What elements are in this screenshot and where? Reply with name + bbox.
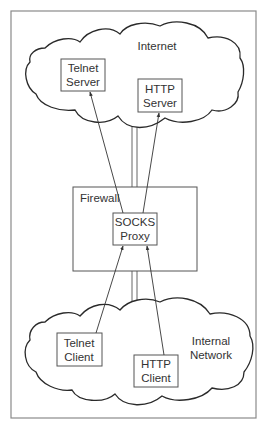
http-client-label-line1: HTTP [141,358,171,370]
telnet-server-node: Telnet Server [61,59,105,91]
socks-proxy-label-line1: SOCKS [115,216,156,228]
internet-cloud [26,22,244,128]
http-client-label-line2: Client [141,372,171,384]
internal-network-label-line1: Internal [192,335,230,347]
network-pipe-top [132,124,137,187]
socks-proxy-diagram: Firewall Internet Internal Network Telne… [0,0,268,425]
http-client-node: HTTP Client [134,355,178,387]
internal-network-label-line2: Network [190,349,232,361]
http-server-label-line1: HTTP [145,83,175,95]
socks-proxy-label-line2: Proxy [120,230,150,242]
socks-proxy-node: SOCKS Proxy [113,213,157,245]
internet-label: Internet [138,40,178,52]
telnet-client-label-line2: Client [64,351,94,363]
http-server-label-line2: Server [143,97,177,109]
http-server-node: HTTP Server [138,79,182,112]
telnet-client-label-line1: Telnet [64,337,95,349]
telnet-server-label-line1: Telnet [68,62,99,74]
firewall-label: Firewall [80,192,120,204]
telnet-client-node: Telnet Client [57,333,102,366]
telnet-server-label-line2: Server [66,76,100,88]
